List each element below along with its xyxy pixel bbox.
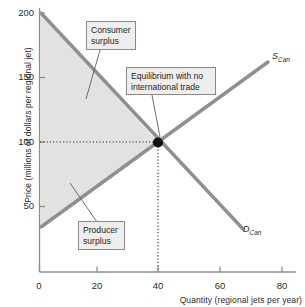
y-axis-title: Price (millions of dollars per regional … [23,40,33,210]
demand-curve-label: DCan [243,224,261,236]
demand-curve-subscript: Can [250,229,262,236]
x-tick-80: 80 [269,280,295,291]
x-axis-title: Quantity (regional jets per year) [180,295,302,305]
x-axis-ticks [40,267,283,273]
plot-canvas [0,0,305,307]
x-tick-0: 0 [26,280,52,291]
equilibrium-point [153,137,163,147]
economics-surplus-chart: 200 150 100 50 0 20 40 60 80 Price (mill… [0,0,305,307]
x-tick-20: 20 [84,280,110,291]
supply-curve-subscript: Can [278,56,290,63]
producer-surplus-callout: Producer surplus [78,221,125,250]
y-tick-200: 200 [8,7,34,18]
consumer-surplus-callout: Consumer surplus [86,21,136,50]
supply-curve-label: SCan [272,51,290,63]
equilibrium-callout: Equilibrium with no international trade [126,67,216,95]
x-tick-40: 40 [145,280,171,291]
x-tick-60: 60 [207,280,233,291]
